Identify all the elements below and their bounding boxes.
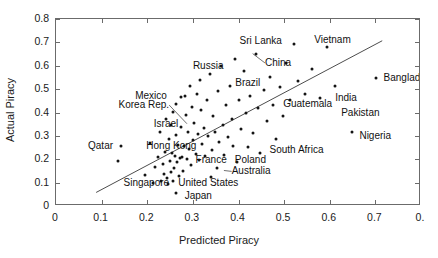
- scatter-point: [303, 93, 306, 96]
- scatter-point: [171, 111, 174, 114]
- scatter-point: [224, 104, 227, 107]
- scatter-point: [185, 114, 188, 117]
- annotation-pakistan: Pakistan: [341, 108, 379, 118]
- scatter-point: [211, 148, 214, 151]
- scatter-point: [237, 98, 240, 101]
- annotation-south-africa: South Africa: [270, 145, 324, 155]
- scatter-point: [207, 135, 210, 138]
- scatter-point: [297, 79, 300, 82]
- scatter-point: [326, 45, 329, 48]
- piracy-scatter-figure: Actual Piracy Predicted Piracy 00.10.20.…: [0, 0, 438, 258]
- scatter-point: [179, 96, 182, 99]
- y-tick-mark: [56, 66, 60, 67]
- y-tick-label: 0.1: [14, 176, 49, 188]
- y-tick-mark-right: [415, 159, 419, 160]
- scatter-point: [218, 141, 221, 144]
- scatter-point: [208, 72, 211, 75]
- scatter-point: [174, 154, 177, 157]
- scatter-point: [282, 115, 285, 118]
- x-tick-label: 0.7: [367, 211, 382, 223]
- scatter-point: [116, 159, 119, 162]
- annotation-india: India: [335, 93, 357, 103]
- scatter-point: [175, 192, 178, 195]
- y-tick-mark-right: [415, 183, 419, 184]
- scatter-point: [162, 172, 165, 175]
- scatter-point: [233, 58, 236, 61]
- scatter-point: [201, 143, 204, 146]
- x-axis-label: Predicted Piracy: [0, 234, 438, 246]
- y-tick-label: 0.2: [14, 152, 49, 164]
- annotation-poland: Poland: [235, 155, 266, 165]
- scatter-point: [184, 94, 187, 97]
- scatter-point: [174, 134, 177, 137]
- scatter-point: [249, 94, 252, 97]
- scatter-point: [180, 155, 183, 158]
- x-tick-label: 0.4: [230, 211, 245, 223]
- x-tick-mark: [102, 200, 103, 204]
- annotation-sri-lanka: Sri Lanka: [240, 36, 282, 46]
- annotation-france: France: [196, 155, 227, 165]
- y-tick-label: 0.6: [14, 59, 49, 71]
- scatter-point: [156, 156, 159, 159]
- x-tick-mark-top: [102, 19, 103, 23]
- x-tick-mark: [375, 200, 376, 204]
- y-tick-mark-right: [415, 66, 419, 67]
- scatter-point: [239, 128, 242, 131]
- scatter-point: [244, 111, 247, 114]
- y-tick-mark: [56, 113, 60, 114]
- scatter-point: [279, 86, 282, 89]
- scatter-point: [172, 179, 175, 182]
- y-tick-mark: [56, 136, 60, 137]
- scatter-point: [163, 150, 166, 153]
- scatter-point: [232, 144, 235, 147]
- scatter-point: [334, 85, 337, 88]
- y-tick-mark-right: [415, 42, 419, 43]
- y-tick-mark: [56, 183, 60, 184]
- annotation-nigeria: Nigeria: [359, 131, 391, 141]
- x-tick-mark: [284, 200, 285, 204]
- scatter-point: [196, 133, 199, 136]
- x-tick-mark-top: [239, 19, 240, 23]
- scatter-point: [262, 89, 265, 92]
- y-tick-mark: [56, 42, 60, 43]
- scatter-point: [159, 131, 162, 134]
- annotation-bangladesh: Bangladesh: [384, 73, 420, 83]
- scatter-point: [185, 157, 188, 160]
- y-tick-mark-right: [415, 113, 419, 114]
- scatter-point: [226, 136, 229, 139]
- scatter-point: [193, 122, 196, 125]
- x-tick-mark: [193, 200, 194, 204]
- y-tick-label: 0.8: [14, 12, 49, 24]
- y-tick-mark: [56, 159, 60, 160]
- annotation-qatar: Qatar: [88, 141, 113, 151]
- scatter-point: [190, 164, 193, 167]
- scatter-point: [161, 163, 164, 166]
- scatter-point: [228, 85, 231, 88]
- scatter-point: [350, 130, 353, 133]
- x-tick-mark-top: [147, 19, 148, 23]
- scatter-point: [254, 52, 257, 55]
- x-tick-mark-top: [375, 19, 376, 23]
- scatter-point: [188, 85, 191, 88]
- scatter-point: [168, 159, 171, 162]
- x-tick-label: 0.5: [276, 211, 291, 223]
- scatter-point: [195, 92, 198, 95]
- annotation-singapore: Singapore: [124, 178, 170, 188]
- scatter-point: [154, 166, 157, 169]
- annotation-japan: Japan: [185, 191, 212, 201]
- y-tick-mark-right: [415, 19, 419, 20]
- annotation-china: China: [265, 58, 291, 68]
- x-tick-mark: [330, 200, 331, 204]
- scatter-point: [169, 171, 172, 174]
- x-tick-label: 0: [52, 211, 58, 223]
- scatter-point: [206, 98, 209, 101]
- x-tick-mark: [147, 200, 148, 204]
- scatter-point: [213, 130, 216, 133]
- y-tick-mark: [56, 19, 60, 20]
- scatter-point: [221, 123, 224, 126]
- plot-area: Sri LankaVietnamChinaRussiaBangladeshBra…: [55, 18, 420, 205]
- x-tick-mark-top: [330, 19, 331, 23]
- scatter-point: [257, 107, 260, 110]
- scatter-point: [174, 102, 177, 105]
- x-tick-label: 0.6: [321, 211, 336, 223]
